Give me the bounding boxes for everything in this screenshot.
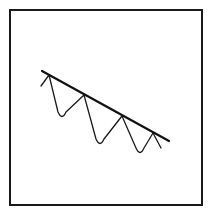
diagram-canvas: [0, 0, 211, 214]
descending-trendline: [42, 71, 169, 141]
price-wave: [41, 75, 161, 153]
trendline-diagram: [0, 0, 211, 214]
